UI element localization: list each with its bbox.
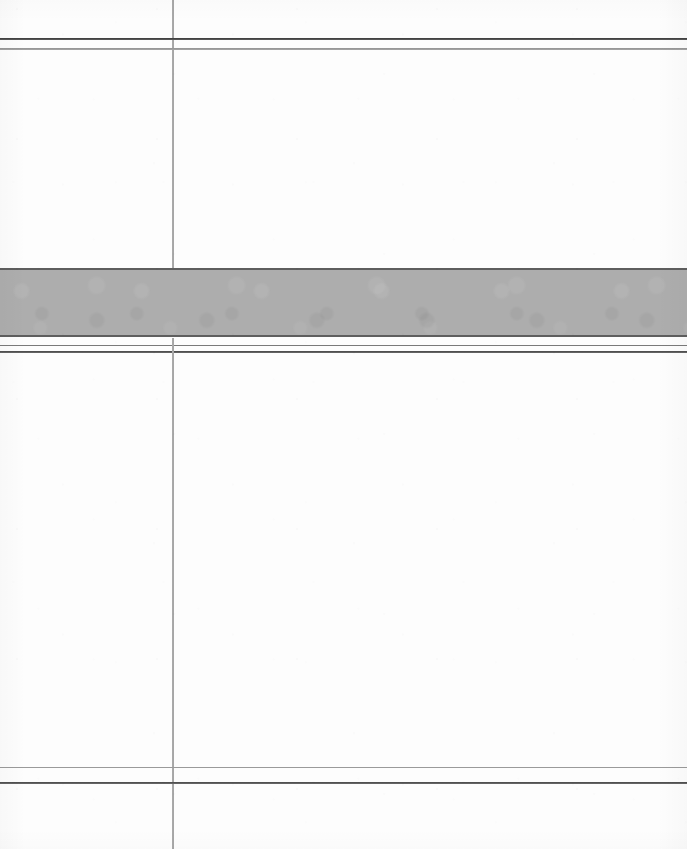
upper-left-cell	[0, 50, 172, 268]
lower-left-cell	[0, 354, 172, 768]
top-rule-secondary	[0, 48, 687, 50]
lower-right-cell	[174, 354, 687, 768]
scanned-page	[0, 0, 687, 849]
footer-right-cell	[174, 785, 687, 849]
band-lower-rule-secondary	[0, 351, 687, 353]
top-rule-primary	[0, 38, 687, 40]
column-divider-lower-segment	[172, 338, 174, 849]
bottom-rule-secondary	[0, 782, 687, 784]
shaded-band-top-edge	[0, 268, 687, 270]
band-lower-rule	[0, 345, 687, 346]
shaded-band-texture	[0, 270, 687, 335]
shaded-band	[0, 268, 687, 337]
bottom-rule-primary	[0, 767, 687, 768]
footer-left-cell	[0, 785, 172, 849]
upper-right-cell	[174, 50, 687, 268]
shaded-band-bottom-edge	[0, 335, 687, 337]
column-divider-upper-segment	[172, 0, 174, 268]
header-strip	[0, 0, 687, 38]
